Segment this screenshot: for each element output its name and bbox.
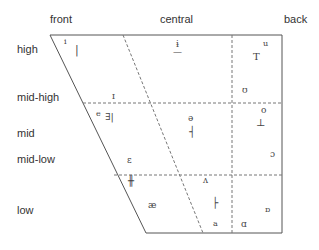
vowel-wedge-marker: ├ bbox=[212, 198, 218, 208]
vowel-o: o bbox=[261, 106, 266, 115]
vowel-i-marker: | bbox=[75, 44, 79, 55]
vowel-schwa: ə bbox=[188, 114, 193, 123]
vowel-barred-i-marker: — bbox=[173, 48, 182, 57]
vowel-small-cap-i: ɪ bbox=[112, 92, 115, 101]
vowel-epsilon: ɛ bbox=[127, 156, 132, 165]
vowel-u: u bbox=[263, 40, 268, 48]
vowel-a: a bbox=[213, 220, 218, 228]
vowel-o-marker: ⊥ bbox=[256, 118, 265, 128]
vowel-ash: æ bbox=[148, 201, 156, 210]
row-label-mid-high: mid-high bbox=[17, 91, 59, 103]
vowel-schwa-marker: ┤ bbox=[189, 127, 195, 137]
vowel-wedge: ʌ bbox=[203, 176, 208, 185]
vowel-i: i bbox=[64, 38, 67, 46]
vowel-open-o: ɔ bbox=[270, 150, 275, 159]
row-label-low: low bbox=[17, 204, 34, 216]
vowel-epsilon-marker: ╫ bbox=[128, 176, 134, 186]
vowel-turned-script-a: ɒ bbox=[265, 206, 270, 214]
row-label-mid-low: mid-low bbox=[17, 153, 55, 165]
vowel-e: e bbox=[96, 110, 101, 118]
vowel-u-marker: T bbox=[253, 52, 260, 62]
vowel-e-marker: ∃| bbox=[105, 112, 114, 122]
vowel-script-a: ɑ bbox=[241, 220, 247, 229]
row-label-high: high bbox=[17, 43, 38, 55]
column-label-front: front bbox=[50, 13, 72, 25]
column-label-central: central bbox=[160, 13, 193, 25]
vowel-trapezoid bbox=[0, 0, 319, 250]
row-label-mid: mid bbox=[17, 127, 35, 139]
vowel-upsilon: ʊ bbox=[242, 86, 248, 95]
column-label-back: back bbox=[284, 13, 307, 25]
